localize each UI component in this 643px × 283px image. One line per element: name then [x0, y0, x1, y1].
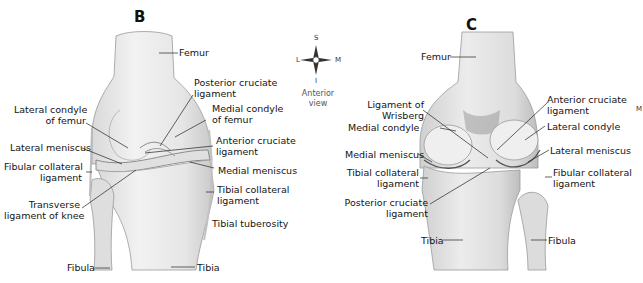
label-c-wrisberg: Ligament of Wrisberg	[346, 99, 424, 121]
label-c-fibular-collateral: Fibular collateral ligament	[553, 167, 632, 189]
label-b-posterior-cruciate: Posterior cruciate ligament	[194, 77, 277, 99]
label-b-fibular-collateral: Fibular collateral ligament	[4, 161, 82, 183]
label-b-transverse-ligament: Transverse ligament of knee	[4, 199, 80, 221]
edge-compass-fragment: M	[636, 105, 642, 113]
label-c-posterior-cruciate: Posterior cruciate ligament	[340, 197, 428, 219]
compass-rose-icon	[300, 45, 332, 75]
label-c-fibula: Fibula	[548, 235, 576, 246]
label-b-tibia: Tibia	[197, 262, 220, 273]
compass-lateral: L	[296, 56, 300, 64]
label-c-femur: Femur	[421, 51, 451, 62]
panel-c-letter: C	[466, 16, 477, 34]
label-b-fibula: Fibula	[67, 262, 95, 273]
label-c-lateral-meniscus: Lateral meniscus	[550, 145, 631, 156]
panel-b-letter: B	[134, 8, 145, 26]
knee-anatomy-figure: B Femur Posterior cruciate ligament Late…	[0, 0, 643, 283]
label-b-tibial-collateral: Tibial collateral ligament	[217, 184, 289, 206]
label-b-femur: Femur	[179, 47, 209, 58]
label-c-medial-condyle: Medial condyle	[348, 122, 419, 133]
knee-illustrations	[0, 0, 643, 283]
label-b-anterior-cruciate: Anterior cruciate ligament	[216, 135, 296, 157]
label-b-lateral-condyle: Lateral condyle of femur	[14, 104, 86, 126]
label-c-medial-meniscus: Medial meniscus	[345, 149, 424, 160]
panel-b-drawing	[82, 32, 214, 271]
label-b-medial-condyle: Medial condyle of femur	[212, 103, 283, 125]
label-c-lateral-condyle: Lateral condyle	[547, 121, 620, 132]
label-b-lateral-meniscus: Lateral meniscus	[10, 142, 91, 153]
label-c-tibial-collateral: Tibial collateral ligament	[340, 167, 419, 189]
compass-inferior: I	[315, 77, 317, 85]
label-b-medial-meniscus: Medial meniscus	[218, 165, 297, 176]
compass-caption: Anterior view	[296, 89, 340, 109]
label-c-tibia: Tibia	[421, 235, 444, 246]
label-b-tibial-tuberosity: Tibial tuberosity	[212, 218, 288, 229]
label-c-anterior-cruciate: Anterior cruciate ligament	[547, 94, 627, 116]
compass-superior: S	[314, 34, 318, 42]
compass-medial: M	[335, 56, 341, 64]
